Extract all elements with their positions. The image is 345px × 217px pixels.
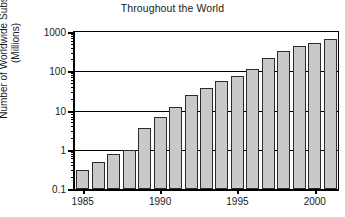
bar-1995: [231, 76, 244, 189]
bar-1996: [246, 69, 259, 189]
x-tick-2000: [315, 189, 317, 194]
x-tick-1990: [160, 189, 162, 194]
y-tick-label-100: 100: [49, 66, 66, 77]
y-tick-label-10: 10: [55, 105, 66, 116]
y-axis-label: Number of Worldwide Subscribers (Million…: [0, 0, 25, 125]
chart-title: Throughout the World: [0, 2, 345, 14]
y-tick-label-1000: 1000: [44, 27, 66, 38]
bar-1991: [169, 107, 182, 189]
bar-1988: [123, 150, 136, 189]
bar-1992: [185, 95, 198, 189]
bar-1986: [92, 162, 105, 189]
plot-area: 10001001010.1 1985199019952000: [73, 31, 339, 191]
x-tick-label-2000: 2000: [304, 196, 326, 207]
bar-1990: [154, 117, 167, 189]
x-tick-label-1990: 1990: [149, 196, 171, 207]
y-tick-label-1: 1: [60, 144, 66, 155]
x-tick-1985: [83, 189, 85, 194]
bar-series: [75, 32, 338, 189]
x-tick-label-1985: 1985: [72, 196, 94, 207]
y-axis-label-line1: Number of Worldwide Subscribers: [0, 0, 10, 119]
bar-1987: [107, 154, 120, 189]
y-axis-label-line2: (Millions): [10, 23, 22, 63]
bar-1993: [200, 88, 213, 189]
x-tick-label-1995: 1995: [226, 196, 248, 207]
bar-1997: [262, 58, 275, 189]
bar-1985: [76, 170, 89, 189]
y-tick-0.1: [68, 189, 75, 191]
bar-1994: [215, 81, 228, 189]
x-tick-1995: [237, 189, 239, 194]
bar-1998: [277, 51, 290, 189]
bar-2000: [308, 43, 321, 189]
bar-1989: [138, 128, 151, 189]
bar-2001: [324, 39, 337, 189]
y-tick-label-0.1: 0.1: [52, 184, 66, 195]
bar-1999: [293, 46, 306, 189]
chart-figure: Throughout the World Number of Worldwide…: [0, 0, 345, 217]
